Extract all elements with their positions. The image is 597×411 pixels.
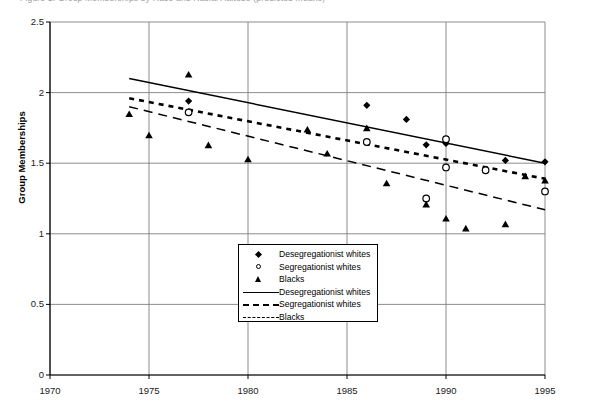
legend-item: Segregationist whites [239, 298, 377, 311]
data-point-segregationist-whites [482, 167, 489, 174]
chart-figure: Figure 1. Group Memberships by Race and … [0, 0, 597, 411]
data-point-blacks [205, 142, 213, 149]
data-point-blacks [185, 71, 193, 78]
data-point-blacks [383, 180, 391, 187]
legend-marker-triangle-icon-glyph [255, 276, 261, 282]
chart-legend: Desegregationist whitesSegregationist wh… [238, 244, 378, 322]
data-point-desegregationist-whites [423, 141, 430, 148]
legend-marker-diamond-icon [243, 248, 279, 260]
legend-item: Blacks [239, 273, 377, 286]
legend-marker-circle-icon [243, 261, 279, 273]
data-point-blacks [502, 221, 510, 228]
trendline-solid [129, 78, 545, 163]
legend-line-solid-icon-glyph [243, 292, 279, 293]
data-point-blacks [125, 110, 133, 117]
trendline-dashed [129, 107, 545, 210]
data-point-segregationist-whites [423, 195, 430, 202]
legend-item-label: Blacks [279, 273, 304, 285]
legend-item: Blacks [239, 311, 377, 324]
legend-item: Desegregationist whites [239, 248, 377, 261]
x-axis-tick-label: 1995 [520, 385, 570, 396]
trendlines-group [129, 78, 545, 209]
legend-item-label: Blacks [279, 311, 304, 323]
data-point-segregationist-whites [443, 136, 450, 143]
y-axis-tick-label: 2 [6, 87, 44, 98]
data-point-segregationist-whites [443, 164, 450, 171]
data-point-blacks [442, 215, 450, 222]
data-point-blacks [244, 156, 252, 163]
legend-marker-circle-icon-glyph [256, 264, 261, 269]
plot-canvas [0, 0, 597, 411]
y-axis-title: Group Memberships [16, 103, 27, 213]
x-axis-tick-label: 1985 [322, 385, 372, 396]
data-point-desegregationist-whites [185, 97, 192, 104]
y-axis-tick-label: 1 [6, 228, 44, 239]
x-axis-tick-label: 1990 [421, 385, 471, 396]
legend-line-dotted-icon-glyph [243, 304, 279, 306]
data-point-blacks [462, 225, 470, 232]
x-axis-tick-label: 1975 [124, 385, 174, 396]
x-axis-tick-label: 1970 [25, 385, 75, 396]
data-point-segregationist-whites [364, 139, 371, 146]
data-point-segregationist-whites [542, 188, 549, 195]
legend-line-dashed-icon-glyph [243, 317, 279, 318]
y-axis-tick-label: 2.5 [6, 16, 44, 27]
y-axis-tick-label: 0.5 [6, 298, 44, 309]
data-point-desegregationist-whites [403, 116, 410, 123]
data-point-blacks [304, 126, 312, 133]
y-axis-tick-label: 0 [6, 369, 44, 380]
legend-item-label: Desegregationist whites [279, 248, 370, 260]
legend-item: Desegregationist whites [239, 286, 377, 299]
data-point-desegregationist-whites [363, 102, 370, 109]
legend-line-dashed-icon [243, 311, 279, 323]
legend-item-label: Segregationist whites [279, 261, 361, 273]
legend-item-label: Segregationist whites [279, 298, 361, 310]
data-point-segregationist-whites [185, 109, 192, 116]
data-point-blacks [422, 201, 430, 208]
legend-item: Segregationist whites [239, 261, 377, 274]
data-point-desegregationist-whites [541, 158, 548, 165]
legend-marker-triangle-icon [243, 273, 279, 285]
data-point-blacks [323, 150, 331, 157]
legend-line-solid-icon [243, 286, 279, 298]
legend-line-dotted-icon [243, 298, 279, 310]
plot-frame-group [46, 22, 545, 379]
data-point-blacks [145, 132, 153, 139]
legend-item-label: Desegregationist whites [279, 286, 370, 298]
x-axis-tick-label: 1980 [223, 385, 273, 396]
legend-marker-diamond-icon-glyph [255, 251, 262, 258]
